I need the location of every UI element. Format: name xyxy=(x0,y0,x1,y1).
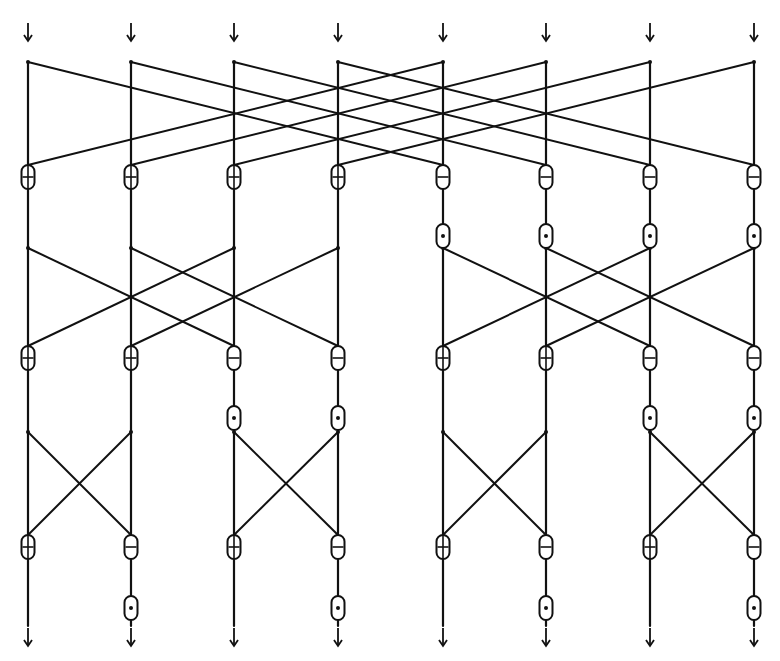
junction-dot xyxy=(129,246,133,250)
multiply-node xyxy=(748,406,761,430)
junction-dot xyxy=(336,246,340,250)
input-arrow-icon xyxy=(230,23,238,41)
output-arrow-icon xyxy=(127,628,135,646)
subtract-node xyxy=(748,165,761,189)
add-node xyxy=(22,535,35,559)
input-arrow-icon xyxy=(646,23,654,41)
multiply-node xyxy=(332,406,345,430)
subtract-node xyxy=(644,165,657,189)
add-node xyxy=(228,165,241,189)
input-arrow-icon xyxy=(24,23,32,41)
add-node xyxy=(125,165,138,189)
multiply-node xyxy=(748,224,761,248)
junction-dot xyxy=(648,60,652,64)
add-node xyxy=(22,165,35,189)
add-node xyxy=(437,346,450,370)
junction-dot xyxy=(544,60,548,64)
subtract-node xyxy=(748,535,761,559)
output-arrow-icon xyxy=(24,628,32,646)
subtract-node xyxy=(748,346,761,370)
input-arrow-icon xyxy=(439,23,447,41)
signal-flow-graph xyxy=(0,0,780,661)
butterfly-diagram xyxy=(0,0,780,661)
output-arrow-icon xyxy=(646,628,654,646)
output-arrow-icon xyxy=(230,628,238,646)
junction-dot xyxy=(129,60,133,64)
junction-dot xyxy=(441,430,445,434)
junction-dot xyxy=(336,60,340,64)
output-arrow-icon xyxy=(750,628,758,646)
input-arrow-icon xyxy=(127,23,135,41)
add-node xyxy=(540,346,553,370)
input-arrow-icon xyxy=(750,23,758,41)
multiply-node xyxy=(644,224,657,248)
junction-dot xyxy=(26,430,30,434)
add-node xyxy=(332,165,345,189)
junction-dot xyxy=(232,60,236,64)
input-arrow-icon xyxy=(542,23,550,41)
multiply-node xyxy=(332,596,345,620)
input-arrow-icon xyxy=(334,23,342,41)
multiply-node xyxy=(125,596,138,620)
subtract-node xyxy=(332,346,345,370)
add-node xyxy=(125,346,138,370)
multiply-node xyxy=(540,596,553,620)
junction-dot xyxy=(26,246,30,250)
subtract-node xyxy=(644,346,657,370)
add-node xyxy=(437,535,450,559)
subtract-node xyxy=(332,535,345,559)
junction-dot xyxy=(441,60,445,64)
junction-dot xyxy=(544,430,548,434)
add-node xyxy=(22,346,35,370)
junction-dot xyxy=(26,60,30,64)
butterfly-crossings xyxy=(26,60,756,535)
multiply-node xyxy=(748,596,761,620)
output-arrow-icon xyxy=(542,628,550,646)
subtract-node xyxy=(540,165,553,189)
subtract-node xyxy=(437,165,450,189)
subtract-node xyxy=(228,346,241,370)
multiply-node xyxy=(228,406,241,430)
output-arrow-icon xyxy=(439,628,447,646)
multiply-node xyxy=(644,406,657,430)
junction-dot xyxy=(752,60,756,64)
add-node xyxy=(644,535,657,559)
subtract-node xyxy=(125,535,138,559)
junction-dot xyxy=(129,430,133,434)
multiply-node xyxy=(437,224,450,248)
junction-dot xyxy=(232,246,236,250)
subtract-node xyxy=(540,535,553,559)
add-node xyxy=(228,535,241,559)
multiply-node xyxy=(540,224,553,248)
output-arrow-icon xyxy=(334,628,342,646)
